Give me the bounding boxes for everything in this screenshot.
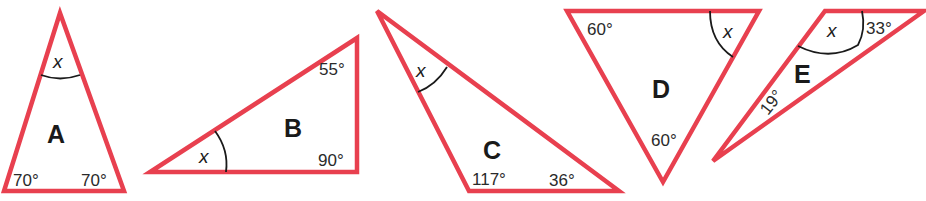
triangle-label: C bbox=[483, 136, 501, 164]
angle-bottom-right: 90° bbox=[318, 151, 344, 170]
triangle-b: x B 55° 90° bbox=[150, 38, 357, 172]
angle-top-left: 60° bbox=[587, 20, 613, 39]
angle-bottom-right: 70° bbox=[81, 171, 107, 190]
angle-bottom-left: 70° bbox=[13, 171, 39, 190]
unknown-angle: x bbox=[415, 60, 427, 81]
unknown-angle: x bbox=[52, 51, 64, 72]
triangle-a-outline bbox=[4, 13, 124, 191]
triangles-diagram: x A 70° 70° x B 55° 90° x C 117° 36° x D… bbox=[0, 0, 926, 201]
unknown-angle: x bbox=[198, 146, 210, 167]
angle-top: 55° bbox=[319, 60, 345, 79]
triangle-label: B bbox=[284, 114, 302, 142]
angle-bottom: 60° bbox=[651, 131, 677, 150]
triangle-label: D bbox=[652, 75, 670, 103]
unknown-angle: x bbox=[722, 21, 734, 42]
triangle-label: E bbox=[794, 60, 811, 88]
triangle-d: x D 60° 60° bbox=[567, 11, 759, 182]
angle-top-right: 33° bbox=[866, 19, 892, 38]
triangle-label: A bbox=[47, 120, 65, 148]
angle-bottom-left: 117° bbox=[472, 170, 506, 189]
triangle-a: x A 70° 70° bbox=[4, 13, 124, 191]
unknown-angle: x bbox=[826, 20, 838, 41]
angle-bottom-right: 36° bbox=[549, 171, 575, 190]
